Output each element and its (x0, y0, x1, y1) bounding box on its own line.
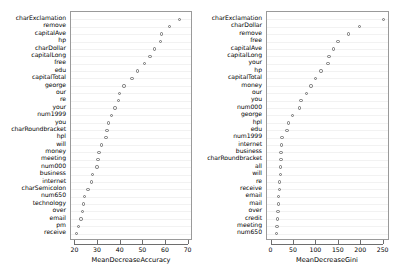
category-label: num1999 (37, 111, 66, 117)
data-point (319, 69, 322, 72)
axis-tick (271, 240, 272, 244)
category-label: charRoundbracket (11, 126, 66, 132)
category-label: num650 (237, 229, 262, 235)
variable-importance-figure: charExclamationremovecapitalAvehpcharDol… (0, 0, 397, 278)
data-point (278, 188, 281, 191)
data-point (276, 210, 279, 213)
data-point (287, 121, 290, 124)
data-point (280, 136, 283, 139)
category-label: meeting (237, 222, 262, 228)
gridline (267, 145, 388, 146)
data-point (130, 77, 133, 80)
data-point (347, 32, 350, 35)
gridline (71, 34, 191, 35)
y-axis-category-labels-left: charExclamationremovecapitalAvehpcharDol… (0, 11, 66, 240)
gridline (71, 71, 191, 72)
category-label: capitalAve (35, 30, 66, 36)
gridline (267, 27, 388, 28)
gridline (71, 101, 191, 102)
axis-tick (120, 240, 121, 244)
category-label: hpl (57, 133, 66, 139)
category-label: business (40, 170, 66, 176)
gridline (71, 167, 191, 168)
gridline (267, 108, 388, 109)
category-label: charDollar (231, 22, 262, 28)
category-label: edu (55, 67, 66, 73)
plot-area-left (70, 11, 192, 240)
category-label: email (245, 192, 262, 198)
gridline (267, 138, 388, 139)
plot-area-right (266, 11, 389, 240)
gridline (267, 204, 388, 205)
x-axis-right (271, 244, 383, 245)
gridline (267, 19, 388, 20)
gridline (71, 226, 191, 227)
gridline (267, 182, 388, 183)
gridline (267, 219, 388, 220)
category-label: pm (56, 222, 66, 228)
gridline (267, 197, 388, 198)
category-label: capitalTotal (32, 74, 66, 80)
category-label: technology (33, 200, 66, 206)
gridline (71, 19, 191, 20)
gridline (71, 175, 191, 176)
gridline (71, 49, 191, 50)
data-point (382, 18, 385, 21)
data-point (110, 114, 113, 117)
data-point (79, 217, 82, 220)
category-label: free (54, 59, 66, 65)
data-point (86, 188, 89, 191)
gridline (71, 64, 191, 65)
category-label: remove (239, 30, 262, 36)
category-label: mail (249, 200, 262, 206)
category-label: your (248, 59, 262, 65)
category-label: your (52, 104, 66, 110)
data-point (336, 40, 339, 43)
category-label: internet (42, 178, 66, 184)
category-label: capitalTotal (228, 74, 262, 80)
gridline (71, 42, 191, 43)
category-label: charExclamation (212, 15, 262, 21)
axis-tick (338, 240, 339, 244)
gridline (267, 123, 388, 124)
gridline (71, 56, 191, 57)
gridline (267, 226, 388, 227)
category-label: meeting (41, 155, 66, 161)
category-label: over (249, 207, 262, 213)
data-point (332, 47, 335, 50)
axis-tick-label: 100 (309, 246, 321, 253)
axis-tick-label: 40 (116, 246, 124, 253)
category-label: charSemicolon (22, 185, 66, 191)
category-label: hp (58, 37, 66, 43)
data-point (122, 84, 125, 87)
data-point (82, 202, 85, 205)
data-point (100, 143, 103, 146)
data-point (160, 32, 163, 35)
category-label: hp (254, 67, 262, 73)
gridline (267, 101, 388, 102)
axis-tick (360, 240, 361, 244)
category-label: hpl (253, 119, 262, 125)
gridline (71, 197, 191, 198)
gridline (71, 160, 191, 161)
category-label: you (251, 96, 262, 102)
category-label: our (252, 89, 262, 95)
data-point (276, 217, 279, 220)
category-label: capitalAve (231, 45, 262, 51)
data-point (97, 151, 100, 154)
data-point (178, 18, 181, 21)
data-point (314, 77, 317, 80)
gridline (267, 78, 388, 79)
gridline (71, 219, 191, 220)
data-point (90, 180, 93, 183)
data-point (327, 55, 330, 58)
category-label: email (49, 215, 66, 221)
gridline (267, 34, 388, 35)
gridline (267, 160, 388, 161)
category-label: business (236, 148, 262, 154)
gridline (267, 93, 388, 94)
data-point (81, 210, 84, 213)
data-point (305, 92, 308, 95)
axis-tick-label: 250 (377, 246, 389, 253)
data-point (280, 143, 283, 146)
